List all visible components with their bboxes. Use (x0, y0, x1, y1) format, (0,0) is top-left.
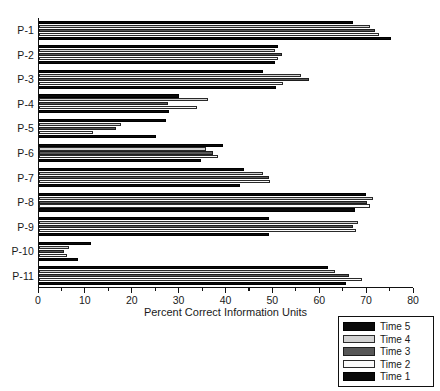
bar-p-4-time-2 (39, 106, 197, 109)
bar-p-10-time-3 (39, 250, 64, 253)
bar-p-8-time-1 (39, 208, 355, 211)
x-tick-label-50: 50 (267, 294, 279, 306)
bar-p-10-time-4 (39, 246, 69, 249)
bar-p-1-time-2 (39, 33, 379, 36)
bar-p-2-time-4 (39, 49, 275, 52)
bar-p-11-time-5 (39, 266, 328, 269)
bar-p-8-time-2 (39, 204, 370, 207)
bar-p-5-time-2 (39, 131, 93, 134)
legend-item-time3: Time 3 (343, 346, 429, 358)
bar-p-4-time-4 (39, 98, 208, 101)
x-tick-70 (366, 288, 367, 293)
bar-group-p-10 (39, 242, 413, 261)
legend-swatch-time4 (343, 335, 375, 344)
y-axis-label-p-4: P-4 (17, 98, 34, 110)
bar-p-1-time-1 (39, 37, 391, 40)
bar-p-7-time-2 (39, 180, 270, 183)
bar-group-p-8 (39, 193, 413, 212)
bar-group-p-1 (39, 21, 413, 40)
bar-p-6-time-4 (39, 147, 206, 150)
bar-p-2-time-3 (39, 53, 282, 56)
legend-label-time4: Time 4 (380, 334, 410, 345)
x-tick-65 (342, 288, 343, 291)
bar-group-p-4 (39, 94, 413, 113)
bar-p-6-time-2 (39, 155, 218, 158)
bar-group-p-11 (39, 266, 413, 285)
plot-area (38, 18, 413, 288)
bar-p-3-time-5 (39, 70, 263, 73)
x-tick-55 (295, 288, 296, 291)
bar-p-7-time-5 (39, 168, 244, 171)
x-tick-20 (131, 288, 132, 293)
y-axis-labels: P-1P-2P-3P-4P-5P-6P-7P-8P-9P-10P-11 (0, 18, 34, 288)
legend-item-time4: Time 4 (343, 333, 429, 345)
x-tick-80 (413, 288, 414, 293)
x-tick-label-0: 0 (35, 294, 41, 306)
y-axis-label-p-7: P-7 (17, 172, 34, 184)
bar-p-1-time-5 (39, 21, 353, 24)
bar-p-7-time-1 (39, 184, 240, 187)
bar-p-2-time-2 (39, 57, 278, 60)
x-tick-15 (108, 288, 109, 291)
legend-item-time2: Time 2 (343, 358, 429, 370)
bar-p-6-time-1 (39, 159, 201, 162)
bar-p-3-time-4 (39, 74, 301, 77)
bar-p-3-time-3 (39, 78, 309, 81)
bar-p-7-time-4 (39, 172, 263, 175)
bar-p-10-time-1 (39, 258, 78, 261)
bar-p-4-time-5 (39, 94, 179, 97)
chart-legend: Time 5Time 4Time 3Time 2Time 1 (338, 316, 434, 387)
legend-label-time5: Time 5 (380, 321, 410, 332)
x-tick-30 (178, 288, 179, 293)
y-axis-label-p-2: P-2 (17, 49, 34, 61)
bar-p-9-time-3 (39, 225, 353, 228)
x-tick-label-40: 40 (220, 294, 232, 306)
bar-p-11-time-1 (39, 282, 346, 285)
x-tick-label-80: 80 (407, 294, 419, 306)
x-tick-5 (61, 288, 62, 291)
bar-p-8-time-5 (39, 193, 366, 196)
x-tick-45 (248, 288, 249, 291)
x-tick-60 (319, 288, 320, 293)
y-axis-label-p-5: P-5 (17, 122, 34, 134)
bar-group-p-5 (39, 119, 413, 138)
bar-p-11-time-4 (39, 270, 335, 273)
bar-p-3-time-2 (39, 82, 283, 85)
y-axis-label-p-6: P-6 (17, 147, 34, 159)
x-tick-label-60: 60 (313, 294, 325, 306)
legend-label-time2: Time 2 (380, 359, 410, 370)
bar-group-p-2 (39, 45, 413, 64)
x-tick-35 (202, 288, 203, 291)
bar-p-2-time-1 (39, 61, 275, 64)
legend-label-time1: Time 1 (380, 371, 410, 382)
bar-p-9-time-1 (39, 233, 269, 236)
bar-p-11-time-2 (39, 278, 362, 281)
bar-group-p-9 (39, 217, 413, 236)
bar-p-9-time-5 (39, 217, 269, 220)
x-tick-label-20: 20 (126, 294, 138, 306)
bar-p-4-time-3 (39, 102, 168, 105)
legend-swatch-time1 (343, 372, 375, 381)
x-tick-label-70: 70 (360, 294, 372, 306)
bar-p-7-time-3 (39, 176, 269, 179)
bar-p-9-time-4 (39, 221, 358, 224)
y-axis-label-p-10: P-10 (11, 245, 34, 257)
bar-p-6-time-3 (39, 151, 213, 154)
bar-p-3-time-1 (39, 86, 276, 89)
x-tick-75 (389, 288, 390, 291)
bar-p-1-time-4 (39, 25, 370, 28)
y-axis-label-p-11: P-11 (12, 270, 34, 282)
bar-p-8-time-3 (39, 201, 367, 204)
bar-p-4-time-1 (39, 110, 169, 113)
x-tick-50 (272, 288, 273, 293)
bar-p-10-time-5 (39, 242, 91, 245)
bar-p-8-time-4 (39, 197, 373, 200)
bar-p-5-time-3 (39, 127, 116, 130)
y-axis-label-p-3: P-3 (17, 73, 34, 85)
legend-label-time3: Time 3 (380, 346, 410, 357)
legend-swatch-time5 (343, 322, 375, 331)
x-tick-40 (225, 288, 226, 293)
y-axis-label-p-1: P-1 (17, 24, 34, 36)
bar-p-10-time-2 (39, 254, 67, 257)
bar-p-5-time-1 (39, 135, 156, 138)
